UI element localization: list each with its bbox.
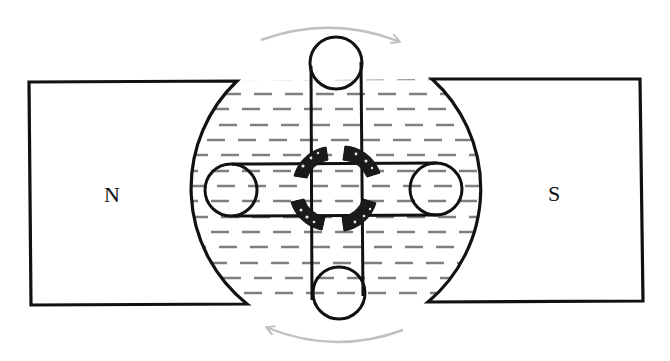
rotation-arrow-bottom (268, 328, 403, 342)
north-pole-label: N (104, 184, 120, 206)
commutator-ring (291, 146, 380, 231)
motor-diagram (0, 0, 670, 361)
south-pole-label: S (548, 183, 560, 205)
north-magnet-pole (29, 81, 247, 305)
south-magnet-pole (428, 79, 643, 302)
magnetic-field-lines (176, 79, 500, 308)
